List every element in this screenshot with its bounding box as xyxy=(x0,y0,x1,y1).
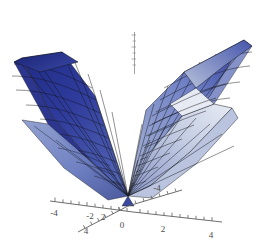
surface-plot-figure: -4 -2 2 4 0 2 4 -4 xyxy=(0,0,266,250)
tick-label-x-diag-neg4: -4 xyxy=(153,183,161,193)
tick-label-y-neg4: -4 xyxy=(50,208,58,218)
surface-plot-canvas: -4 -2 2 4 0 2 4 -4 xyxy=(0,0,266,250)
tick-label-y-neg2: -2 xyxy=(86,211,94,221)
tick-label-x-0: 0 xyxy=(120,220,125,230)
tick-label-x-4: 4 xyxy=(209,230,214,240)
tick-label-y-diag-4: 4 xyxy=(84,226,89,236)
tick-label-y-2: 2 xyxy=(101,212,106,222)
tick-label-x-2: 2 xyxy=(161,224,166,234)
